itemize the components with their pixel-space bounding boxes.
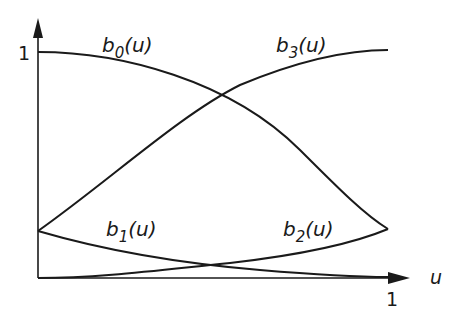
curve-b3 bbox=[38, 50, 388, 231]
label-b1: b1(u) bbox=[106, 217, 157, 246]
basis-function-diagram: 1 1 u b0(u) b3(u) b1(u) b2(u) bbox=[0, 0, 459, 317]
x-tick-1: 1 bbox=[386, 288, 398, 310]
label-b3: b3(u) bbox=[276, 33, 327, 62]
svg-text:b3(u): b3(u) bbox=[276, 33, 327, 62]
x-axis-label: u bbox=[430, 266, 442, 288]
curve-b1 bbox=[38, 231, 388, 277]
y-axis-arrow-icon bbox=[33, 18, 43, 38]
label-b2: b2(u) bbox=[283, 217, 334, 246]
curve-b0 bbox=[38, 52, 388, 229]
curve-b2 bbox=[38, 229, 388, 278]
svg-text:b2(u): b2(u) bbox=[283, 217, 334, 246]
svg-text:b1(u): b1(u) bbox=[106, 217, 157, 246]
y-tick-1: 1 bbox=[18, 42, 30, 64]
x-axis-arrow-icon bbox=[388, 272, 410, 284]
